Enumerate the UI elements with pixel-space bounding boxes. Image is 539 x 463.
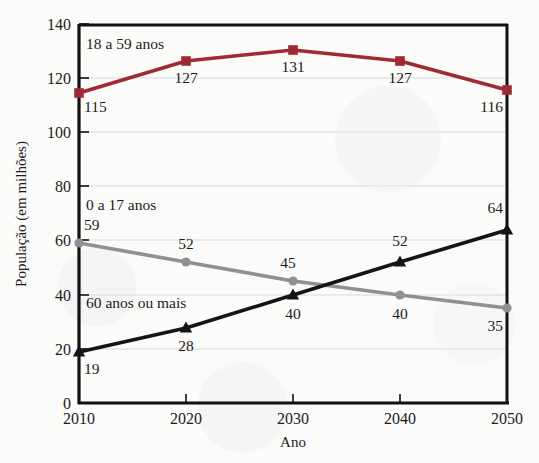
data-label: 127 [174,69,198,86]
data-point-marker [288,45,298,55]
data-label: 40 [392,305,408,322]
data-label: 35 [488,317,504,334]
data-labels-black: 19 28 40 52 64 [84,199,503,377]
data-label: 45 [280,254,296,271]
x-tick-label: 2040 [384,410,416,427]
y-tick-labels: 140 120 100 80 60 40 20 0 [47,16,71,412]
data-label: 116 [480,98,503,115]
y-axis-title: População (em milhões) [13,141,30,287]
data-point-marker [288,276,297,285]
data-label: 131 [281,58,304,75]
data-label: 40 [285,305,301,322]
series-line-60-anos-ou-mais [73,224,513,357]
y-tick-label: 140 [47,16,71,33]
data-point-marker [395,290,404,299]
x-tick-label: 2020 [170,410,202,427]
x-tick-label: 2030 [277,410,309,427]
series-label-18-a-59-anos: 18 a 59 anos [86,35,164,52]
chart-figure: 140 120 100 80 60 40 20 0 2010 2020 2030… [0,0,539,463]
data-point-marker [502,85,512,95]
line-chart-svg: 140 120 100 80 60 40 20 0 2010 2020 2030… [0,0,539,463]
data-point-marker [395,56,405,66]
data-label: 19 [84,360,100,377]
data-label: 59 [84,216,100,233]
x-axis-title: Ano [280,434,306,450]
data-labels-red: 115 127 131 127 116 [84,58,503,115]
y-tick-label: 40 [55,287,71,304]
x-tick-label: 2010 [63,410,95,427]
plot-frame [78,24,509,404]
y-tick-label: 60 [55,232,71,249]
data-label: 127 [388,69,412,86]
data-label: 52 [392,232,408,249]
y-tick-label: 120 [47,70,71,87]
data-point-marker [501,224,513,235]
data-point-marker [502,303,511,312]
x-tick-label: 2050 [491,410,523,427]
data-point-marker [74,238,83,247]
data-point-marker [74,88,84,98]
data-point-marker [181,56,191,66]
data-label: 64 [488,199,504,216]
x-tick-labels: 2010 2020 2030 2040 2050 [63,410,523,427]
series-label-0-a-17-anos: 0 a 17 anos [86,196,156,213]
y-tick-label: 100 [47,124,71,141]
series-label-60-anos-ou-mais: 60 anos ou mais [86,294,186,311]
y-tick-label: 80 [55,178,71,195]
data-label: 28 [178,337,194,354]
data-label: 115 [84,98,107,115]
y-tick-label: 20 [55,341,71,358]
data-point-marker [181,257,190,266]
data-label: 52 [178,235,194,252]
